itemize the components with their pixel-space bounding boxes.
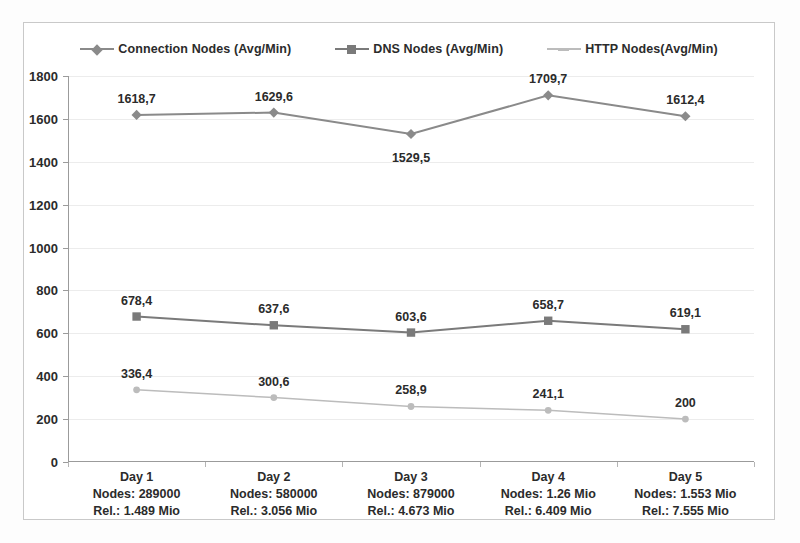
- category-name: Day 5: [617, 469, 754, 486]
- category-name: Day 3: [342, 469, 479, 486]
- data-point-marker: [545, 407, 552, 414]
- y-axis-tick: [63, 119, 68, 120]
- y-axis-tick: [63, 419, 68, 420]
- data-point-label: 1618,7: [117, 92, 155, 106]
- data-point-label: 1529,5: [392, 151, 430, 165]
- y-axis-tick: [63, 290, 68, 291]
- y-axis-tick-label: 1400: [12, 154, 58, 169]
- category-nodes: Nodes: 1.553 Mio: [617, 486, 754, 503]
- y-axis-tick: [63, 376, 68, 377]
- data-point-marker: [133, 386, 140, 393]
- y-axis-tick-labels: 020040060080010001200140016001800: [12, 76, 58, 462]
- data-point-label: 678,4: [121, 294, 152, 308]
- x-axis-category: Day 1Nodes: 289000Rel.: 1.489 Mio: [68, 466, 205, 520]
- data-point-marker: [270, 321, 278, 329]
- data-point-marker: [270, 394, 277, 401]
- data-point-label: 1629,6: [255, 90, 293, 104]
- data-point-marker: [406, 129, 416, 139]
- x-axis-category: Day 2Nodes: 580000Rel.: 3.056 Mio: [205, 466, 342, 520]
- plot-area: 020040060080010001200140016001800 1618,7…: [68, 76, 754, 462]
- y-axis-tick-label: 200: [12, 412, 58, 427]
- y-axis-tick: [63, 76, 68, 77]
- data-point-marker: [681, 325, 689, 333]
- legend-item[interactable]: Connection Nodes (Avg/Min): [80, 42, 291, 56]
- data-point-label: 658,7: [533, 298, 564, 312]
- data-point-label: 300,6: [258, 375, 289, 389]
- data-point-label: 241,1: [533, 387, 564, 401]
- y-axis-tick-label: 1800: [12, 69, 58, 84]
- x-axis-category: Day 3Nodes: 879000Rel.: 4.673 Mio: [342, 466, 479, 520]
- x-axis-category-labels: Day 1Nodes: 289000Rel.: 1.489 MioDay 2No…: [68, 466, 754, 520]
- y-axis-tick-label: 1200: [12, 197, 58, 212]
- y-axis-tick-label: 600: [12, 326, 58, 341]
- data-point-label: 200: [675, 396, 696, 410]
- data-point-marker: [407, 328, 415, 336]
- legend-swatch-icon: [335, 44, 369, 54]
- data-point-marker: [682, 416, 689, 423]
- y-axis-tick: [63, 205, 68, 206]
- series-line: [137, 95, 686, 134]
- data-point-label: 1709,7: [529, 72, 567, 86]
- legend-marker-icon: [92, 44, 103, 55]
- legend-label: DNS Nodes (Avg/Min): [373, 42, 503, 56]
- category-name: Day 4: [480, 469, 617, 486]
- data-point-marker: [680, 111, 690, 121]
- legend-label: Connection Nodes (Avg/Min): [118, 42, 291, 56]
- legend-swatch-icon: [80, 44, 114, 54]
- legend-label: HTTP Nodes(Avg/Min): [585, 42, 717, 56]
- y-axis-tick-label: 1600: [12, 111, 58, 126]
- category-rel: Rel.: 1.489 Mio: [68, 503, 205, 520]
- legend-item[interactable]: DNS Nodes (Avg/Min): [335, 42, 503, 56]
- category-nodes: Nodes: 289000: [68, 486, 205, 503]
- category-rel: Rel.: 7.555 Mio: [617, 503, 754, 520]
- legend-marker-icon: [558, 48, 569, 51]
- category-rel: Rel.: 6.409 Mio: [480, 503, 617, 520]
- series-layer: [68, 76, 754, 462]
- data-point-marker: [132, 312, 140, 320]
- y-axis-tick-label: 400: [12, 369, 58, 384]
- category-nodes: Nodes: 580000: [205, 486, 342, 503]
- y-axis-tick-label: 1000: [12, 240, 58, 255]
- x-axis-category: Day 5Nodes: 1.553 MioRel.: 7.555 Mio: [617, 466, 754, 520]
- y-axis-tick-label: 0: [12, 455, 58, 470]
- legend-marker-icon: [347, 45, 356, 54]
- data-point-marker: [269, 107, 279, 117]
- data-point-label: 258,9: [395, 383, 426, 397]
- y-axis-tick: [63, 248, 68, 249]
- data-point-label: 336,4: [121, 367, 152, 381]
- data-point-marker: [543, 90, 553, 100]
- y-axis-tick: [63, 333, 68, 334]
- data-point-marker: [132, 110, 142, 120]
- data-point-label: 619,1: [670, 306, 701, 320]
- x-axis-tick: [754, 462, 755, 467]
- category-nodes: Nodes: 1.26 Mio: [480, 486, 617, 503]
- data-point-label: 603,6: [395, 310, 426, 324]
- legend-item[interactable]: HTTP Nodes(Avg/Min): [547, 42, 717, 56]
- category-rel: Rel.: 4.673 Mio: [342, 503, 479, 520]
- category-name: Day 2: [205, 469, 342, 486]
- chart-legend: Connection Nodes (Avg/Min)DNS Nodes (Avg…: [23, 36, 775, 62]
- data-point-marker: [544, 317, 552, 325]
- data-point-label: 1612,4: [666, 93, 704, 107]
- category-rel: Rel.: 3.056 Mio: [205, 503, 342, 520]
- data-point-label: 637,6: [258, 302, 289, 316]
- category-nodes: Nodes: 879000: [342, 486, 479, 503]
- data-point-marker: [408, 403, 415, 410]
- x-axis-category: Day 4Nodes: 1.26 MioRel.: 6.409 Mio: [480, 466, 617, 520]
- category-name: Day 1: [68, 469, 205, 486]
- chart-container: Connection Nodes (Avg/Min)DNS Nodes (Avg…: [0, 0, 800, 543]
- y-axis-tick: [63, 162, 68, 163]
- y-axis-tick-label: 800: [12, 283, 58, 298]
- legend-swatch-icon: [547, 44, 581, 54]
